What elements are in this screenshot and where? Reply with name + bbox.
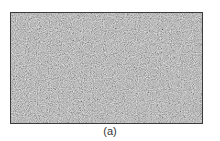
noise-texture-graphic xyxy=(11,13,202,123)
panel-caption: (a) xyxy=(0,125,220,138)
noise-texture-image xyxy=(10,12,203,124)
figure: (a) xyxy=(0,0,220,141)
